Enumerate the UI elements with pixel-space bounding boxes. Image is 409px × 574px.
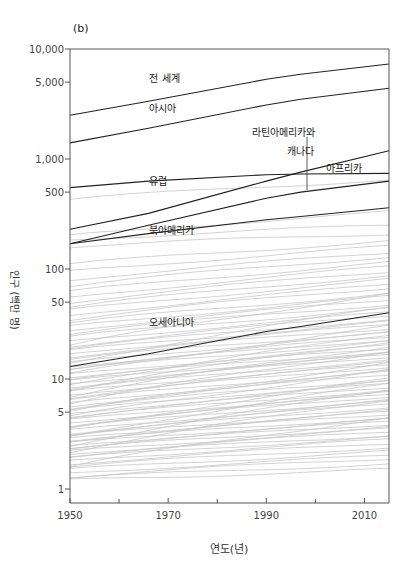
y-tick-label: 500 [45, 187, 64, 198]
y-tick-label: 5 [58, 407, 64, 418]
x-tick-label: 1970 [155, 510, 180, 521]
series-label: 북아메리카 [149, 222, 194, 237]
country-line [70, 235, 389, 248]
country-line [70, 295, 389, 325]
x-tick-label: 1990 [254, 510, 279, 521]
y-tick-label: 50 [51, 297, 64, 308]
country-line [70, 332, 389, 360]
x-tick-label: 2010 [352, 510, 377, 521]
series-label: 유럽 [149, 173, 167, 188]
y-tick-label: 1,000 [35, 154, 64, 165]
series-label: 아프리카 [326, 160, 362, 175]
region-line [70, 88, 389, 143]
y-tick-label: 10,000 [29, 44, 64, 55]
region-line [70, 64, 389, 115]
x-axis-label: 연도(년) [210, 540, 249, 556]
y-tick-label: 1 [58, 484, 64, 495]
country-line [70, 211, 389, 235]
x-tick-label: 1950 [57, 510, 82, 521]
series-label: 라틴아메리카와 [252, 124, 315, 139]
series-label: 오세아니아 [149, 314, 194, 329]
y-tick-label: 10 [51, 374, 64, 385]
series-label: 아시아 [149, 100, 176, 115]
y-tick-label: 5,000 [35, 77, 64, 88]
region-line [70, 173, 389, 187]
country-line [70, 278, 389, 309]
country-line [70, 180, 389, 199]
country-line [70, 258, 389, 287]
series-label: 캐나다 [287, 143, 314, 158]
country-line [70, 289, 389, 321]
y-tick-label: 100 [45, 264, 64, 275]
series-label: 전 세계 [149, 70, 179, 85]
country-line [70, 468, 389, 479]
y-axis-label: 인구 (백만 명) [8, 270, 23, 329]
panel-label: (b) [73, 22, 89, 35]
country-line [70, 241, 389, 264]
